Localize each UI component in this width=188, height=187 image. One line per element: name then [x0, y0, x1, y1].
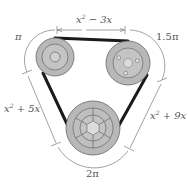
bottom-pulley	[66, 101, 120, 155]
label-right-arc-text: 1.5π	[156, 31, 178, 42]
label-right-arc: 1.5π	[156, 32, 178, 42]
label-bottom-arc-text: 2π	[86, 168, 99, 179]
top-left-pulley	[36, 38, 74, 76]
top-right-pulley	[106, 41, 150, 85]
label-right-segment: x2 + 9x	[150, 110, 186, 121]
label-top-segment: x2 − 3x	[76, 14, 112, 25]
label-left-rest: + 5x	[13, 103, 40, 114]
label-bottom-arc: 2π	[86, 169, 99, 179]
label-left-segment: x2 + 5x	[4, 103, 40, 114]
label-top-rest: − 3x	[85, 14, 112, 25]
belt-pulley-diagram	[0, 0, 188, 187]
label-left-arc: π	[15, 32, 22, 42]
label-right-rest: + 9x	[159, 110, 186, 121]
label-left-arc-text: π	[15, 31, 22, 42]
